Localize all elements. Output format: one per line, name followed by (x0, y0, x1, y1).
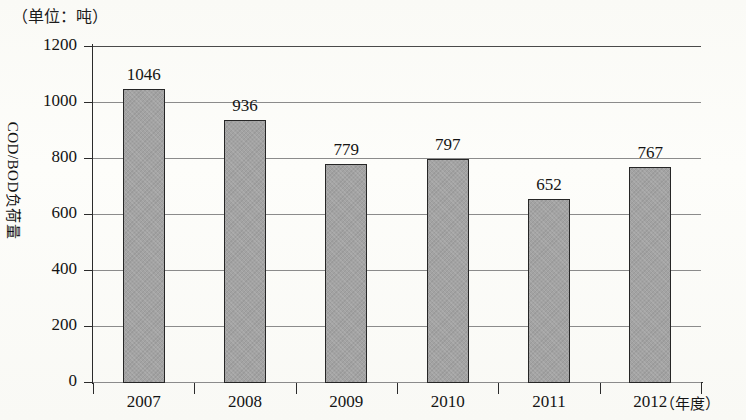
bar (224, 120, 266, 383)
y-axis-tick-label: 1200 (17, 35, 77, 55)
x-axis-tick-label: 2011 (499, 392, 599, 412)
bar (629, 167, 671, 383)
bar-value-label: 767 (600, 143, 700, 163)
bar (325, 164, 367, 383)
bar (123, 89, 165, 383)
bar-value-label: 779 (296, 140, 396, 160)
gridline (93, 270, 701, 271)
bar-value-label: 1046 (94, 65, 194, 85)
y-axis-tick-label: 200 (17, 315, 77, 335)
x-axis-tick-label: 2010 (398, 392, 498, 412)
bar (528, 199, 570, 383)
y-axis-tick (84, 158, 93, 159)
x-axis-tick-label: 2009 (296, 392, 396, 412)
y-axis-tick (84, 382, 93, 383)
y-axis-tick (84, 214, 93, 215)
gridline (93, 326, 701, 327)
y-axis-tick-label: 1000 (17, 91, 77, 111)
x-axis-tick-label: 2007 (94, 392, 194, 412)
bar-value-label: 936 (195, 96, 295, 116)
chart-page: （单位：吨） COD/BOD负荷量 120010008006004002000 … (0, 0, 746, 420)
y-axis-tick-label: 600 (17, 203, 77, 223)
unit-caption: （单位：吨） (12, 3, 108, 27)
y-axis-tick-label: 800 (17, 147, 77, 167)
gridline (93, 214, 701, 215)
y-axis-tick (84, 102, 93, 103)
y-axis-tick-label: 0 (17, 371, 77, 391)
y-axis-tick (84, 46, 93, 47)
bar (427, 159, 469, 383)
gridline (93, 46, 701, 47)
gridline (93, 102, 701, 103)
x-axis-unit-label: （年度） (660, 392, 720, 413)
x-axis-tick-label: 2008 (195, 392, 295, 412)
y-axis-tick (84, 270, 93, 271)
bar-value-label: 652 (499, 175, 599, 195)
y-axis-tick-label: 400 (17, 259, 77, 279)
bar-value-label: 797 (398, 135, 498, 155)
y-axis-tick (84, 326, 93, 327)
